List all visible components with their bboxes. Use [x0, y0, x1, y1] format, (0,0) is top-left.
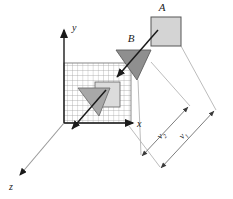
y-axis-label: y	[71, 22, 77, 33]
z-axis-label: z	[8, 181, 13, 192]
figure-canvas: A B y x z v2 v1	[0, 0, 233, 199]
diagram-svg: A B y x z v2 v1	[0, 0, 233, 199]
ext-line-from-A	[181, 46, 216, 110]
svg-text:v1: v1	[177, 129, 190, 142]
object-A-label: A	[158, 1, 166, 13]
object-B-label: B	[128, 32, 135, 44]
z-axis-line	[20, 123, 64, 175]
object-A-shape	[151, 17, 181, 46]
object-A	[151, 17, 181, 46]
dimension-v1-label-group: v1	[177, 129, 190, 142]
x-axis-label: x	[136, 118, 142, 129]
dimension-lines	[142, 107, 214, 168]
ext-line-from-B	[151, 62, 190, 106]
dimension-v1-line	[161, 111, 214, 168]
dimension-v2-line	[142, 107, 188, 156]
